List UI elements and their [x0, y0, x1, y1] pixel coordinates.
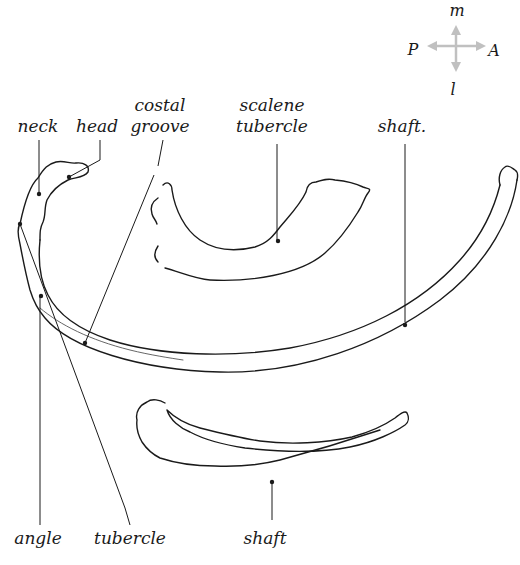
twelfth-rib-head: [137, 400, 380, 466]
costal-groove-line: [40, 308, 183, 360]
arrow-left-icon: [427, 41, 437, 51]
arrow-right-icon: [476, 41, 486, 51]
label-shaft-typical: shaft.: [378, 118, 426, 135]
label-angle: angle: [14, 530, 61, 547]
compass-label-anterior: A: [488, 43, 500, 59]
label-neck: neck: [18, 118, 59, 135]
label-costal-line2: groove: [130, 118, 189, 135]
leader-head: [69, 140, 100, 177]
arrow-down-icon: [451, 62, 461, 72]
typical-rib-inner-border: [39, 185, 500, 354]
dot-head: [67, 175, 71, 179]
dot-angle: [39, 294, 43, 298]
dot-costal-groove: [83, 341, 87, 345]
label-scalene-line2: tubercle: [236, 118, 308, 135]
arrow-up-icon: [451, 25, 461, 35]
compass-label-posterior: P: [408, 42, 419, 58]
rib-diagram: [0, 0, 520, 565]
dot-tubercle: [18, 222, 22, 226]
typical-rib-head-neck-outline: [20, 161, 88, 240]
dot-scalene-tubercle: [276, 239, 280, 243]
dot-shaft-typical: [403, 323, 407, 327]
first-rib-inner-border: [163, 179, 370, 280]
twelfth-rib-outline: [167, 410, 408, 451]
label-shaft-12th: shaft: [244, 530, 287, 547]
label-tubercle: tubercle: [94, 530, 166, 547]
dot-neck: [37, 192, 41, 196]
leader-costal-groove: [85, 140, 163, 343]
compass-label-medial: m: [449, 3, 464, 19]
typical-rib-sternal-end: [499, 166, 517, 185]
orientation-compass: [427, 25, 486, 72]
label-costal-line1: costal: [135, 97, 186, 114]
first-rib-broken-end-lower: [155, 246, 158, 262]
label-scalene-line1: scalene: [240, 97, 305, 114]
first-rib-broken-end-upper: [151, 198, 158, 224]
leader-tubercle: [20, 224, 130, 525]
label-head: head: [76, 118, 118, 135]
compass-label-lateral: l: [450, 82, 455, 98]
dot-shaft-12th: [270, 480, 274, 484]
